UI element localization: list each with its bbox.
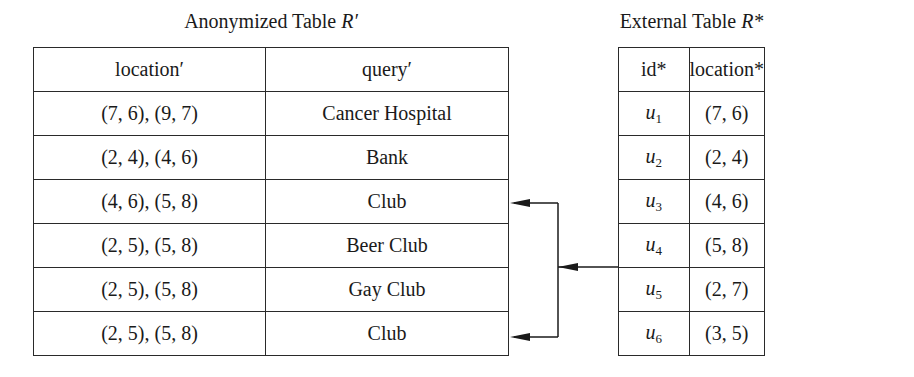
arrowhead-icon [558, 263, 578, 271]
arrowhead-icon [510, 199, 530, 207]
arrowhead-icon [510, 333, 530, 341]
linking-arrows [0, 0, 914, 377]
